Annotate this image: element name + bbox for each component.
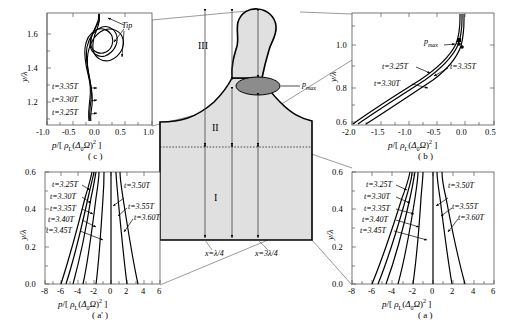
panel-a-label-t355: t=3.55T [452, 203, 478, 211]
panel-aprime-ytick-0_2: 0.2 [25, 243, 36, 252]
panel-a-label-t335: t=3.35T [364, 205, 390, 213]
panel-b-xtick--2_0: -2.0 [342, 128, 355, 137]
panel-b-pmax-label: pmax [424, 38, 438, 48]
schematic-region-III: III [198, 41, 208, 51]
panel-c-xtick--1_0: -1.0 [36, 128, 49, 137]
panel-c-xtick--0_5: -0.5 [62, 128, 75, 137]
panel-aprime-label-t360: t=3.60T [134, 214, 160, 222]
panel-a-xtick--8: -8 [348, 287, 355, 296]
panel-b-yaxis-label: y/λ [329, 72, 338, 82]
panel-b-xtick-0_5: 0.5 [485, 128, 496, 137]
panel-aprime-xtick-0: 0 [108, 287, 112, 296]
panel-c-tip-label: Tip [122, 22, 132, 30]
panel-c-xtick-0_5: 0.5 [115, 128, 126, 137]
schematic-pmax-sub: max [306, 85, 316, 91]
panel-a-xtick-6: 6 [491, 287, 495, 296]
panel-a-label-t345: t=3.45T [360, 227, 386, 235]
panel-a-xtick--4: -4 [388, 287, 395, 296]
panel-a-ytick-0_4: 0.4 [332, 205, 343, 214]
central-schematic [160, 9, 312, 250]
panel-b-xaxis-label: p/[ ρL(Δ0Ω)2 ] [388, 139, 437, 152]
panel-c-label-t325: t=3.25T [52, 109, 78, 117]
panel-aprime-label-t340: t=3.40T [48, 216, 74, 224]
panel-b-caption: ( b ) [418, 152, 433, 161]
panel-aprime-ytick-0_4: 0.4 [25, 205, 36, 214]
panel-aprime-yaxis-label: y/λ [19, 230, 28, 240]
panel-a-ytick-0_6: 0.6 [332, 168, 343, 177]
panel-aprime-label-t325: t=3.25T [52, 181, 78, 189]
panel-b-ytick-1_0: 1.0 [336, 41, 347, 50]
panel-a-ytick-0_2: 0.2 [332, 243, 343, 252]
schematic-region-II: II [212, 123, 219, 133]
panel-a-yaxis-label: y/λ [326, 230, 335, 240]
panel-b-yaxis-text: y/λ [328, 72, 338, 82]
panel-aprime-label-t350: t=3.50T [124, 182, 150, 190]
panel-c-xtick-1_0: 1.0 [143, 128, 154, 137]
panel-b-ytick-0_6: 0.6 [336, 118, 347, 127]
panel-b-ytick-0_8: 0.8 [336, 84, 347, 93]
panel-c-label-t330: t=3.30T [52, 96, 78, 104]
panel-aprime-label-t330: t=3.30T [50, 193, 76, 201]
panel-b-xtick--0_5: -0.5 [427, 128, 440, 137]
panel-c-label-t335: t=3.35T [52, 83, 78, 91]
figure-svg [0, 0, 510, 326]
schematic-spike [232, 9, 276, 78]
panel-b-label-t335: t=3.35T [450, 63, 476, 71]
panel-aprime-label-t345: t=3.45T [46, 227, 72, 235]
panel-aprime-ytick-0_0: 0.0 [25, 280, 36, 289]
schematic-body [160, 78, 312, 240]
panel-aprime-xtick-4: 4 [141, 287, 145, 296]
panel-a-xaxis-label: p/[ ρL(Δ0Ω)2 ] [382, 298, 431, 311]
panel-a-label-t330: t=3.30T [364, 193, 390, 201]
panel-a-xtick-0: 0 [430, 287, 434, 296]
panel-c-yaxis-text: y/λ [19, 72, 29, 82]
panel-c-ytick-1_6: 1.6 [27, 30, 38, 39]
panel-aprime-xtick-2: 2 [124, 287, 128, 296]
panel-b-xtick--1_0: -1.0 [398, 128, 411, 137]
panel-b-xtick-0_0: 0.0 [456, 128, 467, 137]
panel-aprime-xaxis-label: p/[ ρL(Δ0Ω)2 ] [58, 298, 107, 311]
panel-a-ytick-0_0: 0.0 [332, 280, 343, 289]
panel-aprime-label-t335: t=3.35T [50, 205, 76, 213]
panel-a-label-t340: t=3.40T [362, 216, 388, 224]
panel-a-label-t325: t=3.25T [366, 181, 392, 189]
panel-aprime-yaxis-text: y/λ [18, 230, 28, 240]
panel-a-label-t360: t=3.60T [458, 214, 484, 222]
panel-c-ytick-1_2: 1.2 [27, 98, 38, 107]
pmax-ellipse [236, 77, 280, 95]
panel-a-xtick-2: 2 [450, 287, 454, 296]
panel-b-label-t325: t=3.25T [382, 63, 408, 71]
panel-aprime-label-t355: t=3.55T [128, 203, 154, 211]
panel-a-xtick--2: -2 [409, 287, 416, 296]
panel-a-xtick-4: 4 [471, 287, 475, 296]
panel-aprime-ytick-0_6: 0.6 [25, 168, 36, 177]
panel-c-xtick-0_0: 0.0 [89, 128, 100, 137]
panel-aprime-xtick--2: -2 [90, 287, 97, 296]
panel-aprime-xtick--4: -4 [74, 287, 81, 296]
figure-root: 1.6 1.4 1.2 y/λ -1.0 -0.5 0.0 0.5 1.0 p/… [0, 0, 510, 326]
panel-c-yaxis-label: y/λ [20, 72, 29, 82]
panel-a-xtick--6: -6 [368, 287, 375, 296]
panel-c-caption: ( c ) [88, 152, 103, 161]
panel-a-label-t350: t=3.50T [448, 182, 474, 190]
schematic-xpos-1: x=λ/4 [205, 250, 224, 258]
panel-aprime-caption: ( a' ) [92, 311, 108, 320]
panel-b-pmax-sub: max [428, 42, 438, 48]
schematic-region-I: I [214, 193, 217, 203]
schematic-xpos-2: x=3λ/4 [255, 250, 278, 258]
panel-b-label-t330: t=3.30T [374, 80, 400, 88]
panel-aprime-xtick--8: -8 [41, 287, 48, 296]
panel-aprime-xtick--6: -6 [57, 287, 64, 296]
panel-aprime-xtick-6: 6 [157, 287, 161, 296]
panel-a-yaxis-text: y/λ [325, 230, 335, 240]
schematic-pmax-label: pmax [302, 81, 316, 91]
panel-c-xaxis-label: p/[ ρL(Δ0Ω)2 ] [52, 139, 101, 152]
panel-b-xtick--1_5: -1.5 [371, 128, 384, 137]
panel-a-caption: ( a ) [418, 311, 433, 320]
